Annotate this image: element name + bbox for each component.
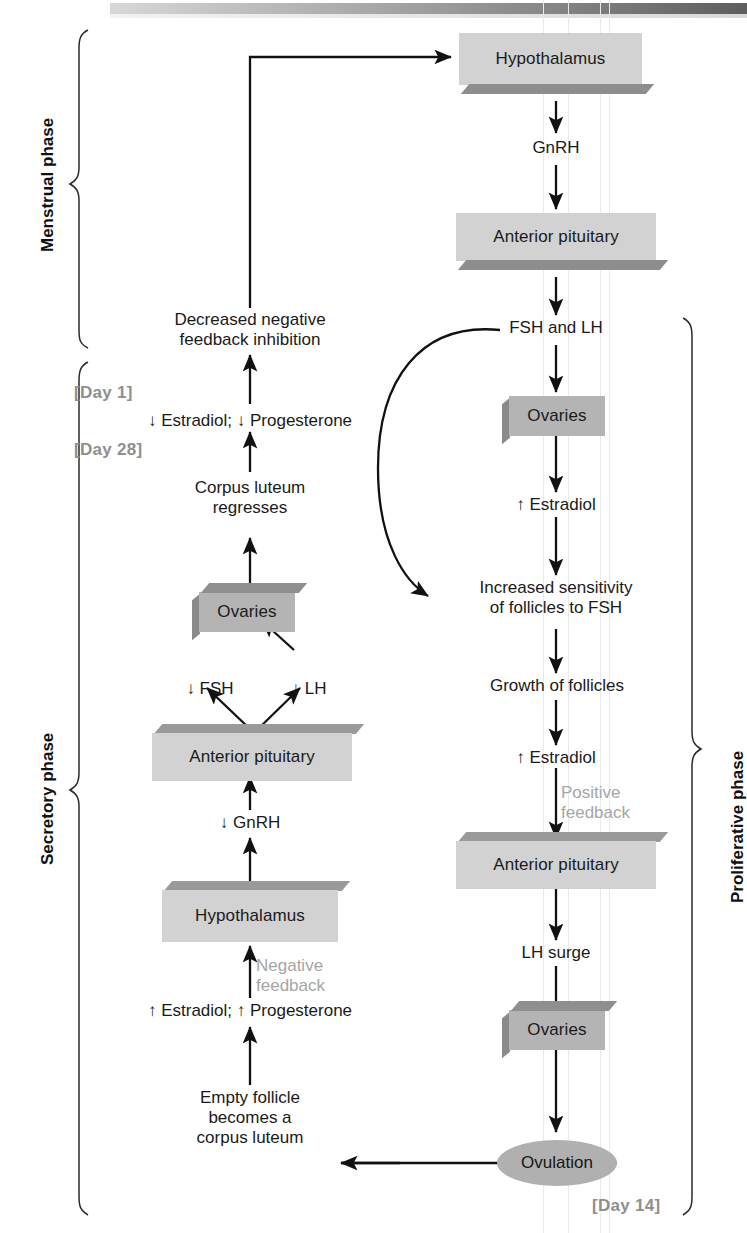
label-negative-feedback: Negative feedback <box>256 956 386 996</box>
box-label: Anterior pituitary <box>456 213 656 261</box>
box-label: Hypothalamus <box>162 890 338 942</box>
label-day-28: [Day 28] <box>74 440 194 460</box>
box-ovaries-upper-right: Ovaries <box>509 396 605 436</box>
label-increased-sensitivity: Increased sensitivity of follicles to FS… <box>451 578 661 618</box>
box-hypothalamus-top: Hypothalamus <box>459 33 642 85</box>
label-lh-surge: LH surge <box>500 943 612 963</box>
box-label: Anterior pituitary <box>152 733 352 781</box>
label-high-estradiol-progesterone: ↑ Estradiol; ↑ Progesterone <box>135 1001 365 1021</box>
box-label: Ovaries <box>199 592 295 632</box>
ellipse-ovulation: Ovulation <box>497 1140 617 1186</box>
label-estradiol-up-2: ↑ Estradiol <box>498 748 614 768</box>
box-anterior-pituitary-mid: Anterior pituitary <box>456 841 656 889</box>
diagram-canvas: Hypothalamus GnRH Anterior pituitary FSH… <box>0 0 747 1233</box>
label-fsh-and-lh: FSH and LH <box>496 318 616 338</box>
top-gradient-bar <box>110 3 747 14</box>
phase-label-menstrual: Menstrual phase <box>38 118 58 252</box>
label-corpus-luteum-regresses: Corpus luteum regresses <box>165 478 335 518</box>
label-empty-follicle: Empty follicle becomes a corpus luteum <box>165 1088 335 1148</box>
label-gnrh-down: ↓ GnRH <box>194 813 306 833</box>
box-label: Ovaries <box>509 396 605 436</box>
label-decreased-negative-feedback: Decreased negative feedback inhibition <box>140 310 360 350</box>
box-label: Hypothalamus <box>459 33 642 85</box>
label-estradiol-up-1: ↑ Estradiol <box>498 495 614 515</box>
top-gradient-bar-shadow <box>110 14 747 18</box>
label-growth-of-follicles: Growth of follicles <box>477 676 637 696</box>
label-low-estradiol-progesterone: ↓ Estradiol; ↓ Progesterone <box>135 411 365 431</box>
box-anterior-pituitary-left: Anterior pituitary <box>152 733 352 781</box>
box-ovaries-left: Ovaries <box>199 592 295 632</box>
label-gnrh: GnRH <box>516 138 596 158</box>
phase-label-secretory: Secretory phase <box>38 733 58 865</box>
box-hypothalamus-left: Hypothalamus <box>162 890 338 942</box>
box-label: Ovaries <box>509 1010 605 1050</box>
label-positive-feedback: Positive feedback <box>561 783 691 823</box>
label-day-14: [Day 14] <box>592 1196 702 1216</box>
phase-label-proliferative: Proliferative phase <box>728 751 747 903</box>
box-ovaries-lower-right: Ovaries <box>509 1010 605 1050</box>
box-anterior-pituitary-top: Anterior pituitary <box>456 213 656 261</box>
label-lh-down: ↓ LH <box>269 679 349 699</box>
label-fsh-down: ↓ FSH <box>165 679 255 699</box>
label-day-1: [Day 1] <box>74 383 184 403</box>
box-label: Anterior pituitary <box>456 841 656 889</box>
